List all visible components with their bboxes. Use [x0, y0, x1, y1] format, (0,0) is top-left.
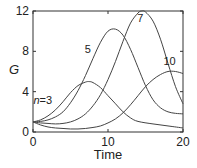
- y-tick-label: 8: [22, 44, 29, 58]
- ticks: 0102004812: [16, 4, 190, 149]
- series-line-n-3: [33, 82, 183, 128]
- y-tick-label: 4: [22, 85, 29, 99]
- curve-label: n=3: [33, 94, 52, 106]
- chart: 0102004812 n=35710 Time G: [0, 0, 197, 168]
- plot-area: [33, 11, 183, 132]
- y-tick-label: 0: [22, 125, 29, 139]
- x-tick-label: 20: [176, 135, 190, 149]
- plot-frame: [33, 11, 183, 132]
- x-tick-label: 0: [30, 135, 37, 149]
- curve-label: 10: [163, 55, 175, 67]
- series-line-n-5: [33, 29, 183, 122]
- curve-label: 5: [85, 43, 91, 55]
- curve-label: 7: [137, 12, 143, 24]
- x-axis-label: Time: [94, 147, 122, 162]
- y-tick-label: 12: [16, 4, 30, 18]
- y-axis-label: G: [9, 62, 19, 77]
- series-line-n-7: [33, 11, 183, 124]
- curves: [33, 11, 183, 129]
